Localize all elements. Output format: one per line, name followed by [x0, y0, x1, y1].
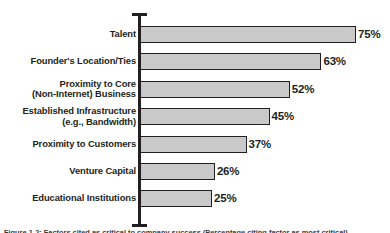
figure-caption: Figure 1-2: Factors cited as critical to…	[4, 228, 388, 233]
bar-value-label: 52%	[292, 83, 314, 96]
category-label: Proximity to Customers	[0, 139, 136, 149]
category-label: Proximity to Core (Non-Internet) Busines…	[0, 79, 136, 100]
bar-chart-figure: Talent75%Founder's Location/Ties63%Proxi…	[0, 0, 390, 233]
bar	[140, 136, 247, 153]
bar-value-label: 45%	[272, 110, 294, 123]
category-label: Founder's Location/Ties	[0, 56, 136, 66]
bar-value-label: 75%	[358, 28, 380, 41]
bar-row: Talent75%	[0, 26, 390, 43]
bar-value-label: 37%	[249, 138, 271, 151]
bar-row: Founder's Location/Ties63%	[0, 53, 390, 70]
bar-value-label: 63%	[323, 55, 345, 68]
bar-row: Educational Institutions25%	[0, 190, 390, 207]
bar-value-label: 26%	[217, 165, 239, 178]
category-label: Established Infrastructure (e.g., Bandwi…	[0, 106, 136, 127]
bar	[140, 81, 290, 98]
category-label: Educational Institutions	[0, 193, 136, 203]
bar-row: Established Infrastructure (e.g., Bandwi…	[0, 108, 390, 125]
bar-rows: Talent75%Founder's Location/Ties63%Proxi…	[0, 0, 390, 233]
bar-row: Proximity to Core (Non-Internet) Busines…	[0, 81, 390, 98]
category-label: Talent	[0, 29, 136, 39]
bar-row: Venture Capital26%	[0, 163, 390, 180]
bar	[140, 53, 321, 70]
category-label: Venture Capital	[0, 166, 136, 176]
bar	[140, 163, 215, 180]
bar	[140, 26, 356, 43]
bar-row: Proximity to Customers37%	[0, 136, 390, 153]
bar-value-label: 25%	[214, 192, 236, 205]
bar	[140, 108, 270, 125]
bar	[140, 190, 212, 207]
